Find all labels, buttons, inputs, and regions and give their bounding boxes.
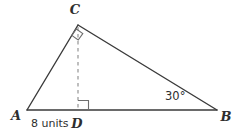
vertex-label-c: C (70, 2, 81, 17)
vertex-label-b: B (220, 109, 232, 124)
vertex-label-d: D (70, 116, 83, 131)
figure-background (0, 0, 244, 134)
geometry-figure: C A D B 8 units 30° (0, 0, 244, 134)
vertex-label-a: A (9, 108, 21, 123)
geometry-canvas: C A D B 8 units 30° (0, 0, 244, 134)
angle-b-measure-label: 30° (165, 89, 185, 103)
segment-ad-measure-label: 8 units (31, 117, 69, 130)
